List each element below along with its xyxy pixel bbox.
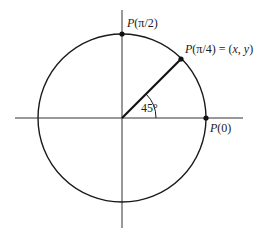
- label-arg: (π/4): [192, 42, 215, 56]
- label-arg: (π/2): [134, 16, 157, 30]
- label-close: ): [249, 42, 253, 56]
- label-equals: = (: [216, 42, 233, 56]
- label-p-zero: P(0): [209, 121, 231, 135]
- point-pi-over-2-dot: [119, 31, 124, 36]
- unit-circle-diagram: P(π/2) P(π/4) = (x, y) 45° P(0): [0, 0, 269, 238]
- point-zero-dot: [203, 115, 208, 120]
- label-angle: 45°: [141, 101, 158, 115]
- label-arg: (0): [217, 121, 231, 135]
- point-pi-over-4-dot: [178, 56, 183, 61]
- label-p-pi-over-2: P(π/2): [126, 16, 158, 30]
- label-p-pi-over-4: P(π/4) = (x, y): [184, 42, 253, 56]
